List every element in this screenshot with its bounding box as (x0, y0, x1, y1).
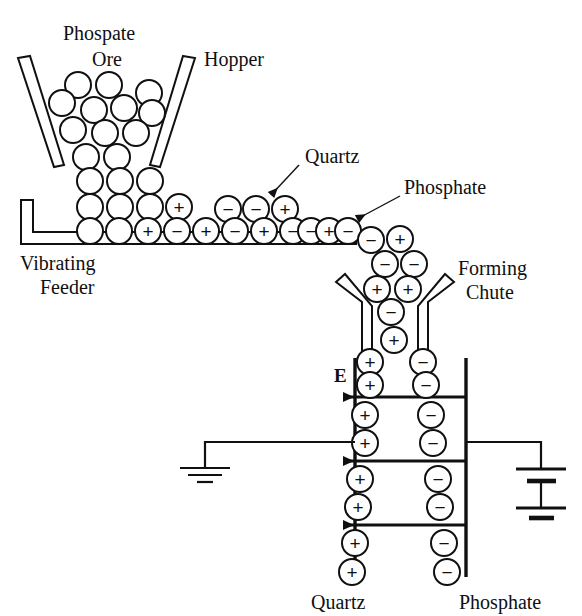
label-vibrating-feeder-line2: Feeder (40, 276, 95, 298)
charge-sign: + (323, 221, 334, 242)
charge-sign: + (364, 352, 375, 373)
label-forming-chute-line2: Chute (466, 281, 514, 303)
particle-negative: − (418, 402, 444, 428)
charge-sign: − (432, 469, 443, 490)
particle-neutral (77, 218, 103, 244)
charge-sign: + (279, 199, 290, 220)
particle-positive: + (166, 194, 192, 220)
particle-positive: + (193, 218, 219, 244)
charge-sign: − (420, 375, 431, 396)
particle-negative: − (372, 251, 398, 277)
particle-negative: − (410, 349, 436, 375)
label-bottom-phosphate: Phosphate (459, 591, 541, 614)
ore-particle (77, 168, 103, 194)
label-phosphate-callout: Phosphate (404, 176, 486, 199)
ore-particle (49, 90, 75, 116)
particle-positive: + (364, 276, 390, 302)
charge-sign: − (379, 254, 390, 275)
ore-particle (137, 168, 163, 194)
charge-sign: − (427, 433, 438, 454)
charge-sign: + (346, 562, 357, 583)
charge-sign: − (441, 562, 452, 583)
charge-sign: − (425, 405, 436, 426)
charge-sign: + (388, 330, 399, 351)
ore-particle (96, 72, 122, 98)
particle-neutral (107, 194, 133, 220)
particle-neutral (137, 194, 163, 220)
particle-positive: + (352, 430, 378, 456)
particle-positive: + (352, 402, 378, 428)
charge-sign: + (354, 469, 365, 490)
label-phosphate-ore-line1: Phospate (63, 22, 135, 45)
particle-negative: − (420, 430, 446, 456)
charge-sign: + (394, 229, 405, 250)
particle-positive: + (347, 466, 373, 492)
charge-sign: + (352, 497, 363, 518)
charge-sign: + (349, 533, 360, 554)
phosphate-callout-leader (357, 196, 400, 219)
ore-particle (107, 168, 133, 194)
particle-positive: + (342, 530, 368, 556)
ore-particle (123, 120, 149, 146)
particle-negative: − (358, 227, 384, 253)
ground-terminal-group (180, 442, 355, 482)
charge-sign: − (229, 221, 240, 242)
particle-positive: + (345, 494, 371, 520)
particle-negative: − (378, 299, 404, 325)
charge-sign: − (417, 352, 428, 373)
battery-terminal-group (466, 442, 566, 518)
particle-neutral (106, 218, 132, 244)
label-forming-chute-line1: Forming (458, 257, 527, 280)
charge-sign: + (258, 221, 269, 242)
ore-particle-group (49, 72, 165, 194)
ore-particle (104, 144, 130, 170)
particle-positive: + (395, 276, 421, 302)
charge-sign: − (342, 221, 353, 242)
battery-wire (466, 442, 541, 469)
charge-sign: − (438, 533, 449, 554)
ore-particle (60, 117, 86, 143)
diagram-canvas: + − − + + (0, 0, 582, 616)
charge-sign: − (305, 221, 316, 242)
particle-positive: + (339, 559, 365, 585)
charge-sign: − (408, 254, 419, 275)
ore-particle (81, 97, 107, 123)
charge-sign: + (173, 197, 184, 218)
charge-sign: + (364, 375, 375, 396)
particle-positive: + (357, 372, 383, 398)
ore-particle (92, 120, 118, 146)
charge-sign: − (250, 199, 261, 220)
particle-neutral (77, 194, 103, 220)
charge-sign: + (200, 221, 211, 242)
charge-sign: − (287, 221, 298, 242)
label-vibrating-feeder-line1: Vibrating (20, 252, 95, 275)
particle-negative: − (164, 218, 190, 244)
particle-negative: − (434, 559, 460, 585)
label-quartz-callout: Quartz (305, 145, 360, 167)
ground-wire (205, 442, 355, 468)
charge-sign: + (359, 433, 370, 454)
ore-particle (111, 95, 137, 121)
charge-sign: + (402, 279, 413, 300)
quartz-callout-leader (271, 165, 299, 195)
chute-right-wall (418, 274, 454, 353)
charge-sign: + (359, 405, 370, 426)
label-phosphate-ore-line2: Ore (92, 48, 122, 70)
particle-negative: − (413, 372, 439, 398)
particle-positive: + (387, 226, 413, 252)
charge-sign: − (385, 302, 396, 323)
particle-negative: − (401, 251, 427, 277)
ore-particle (73, 144, 99, 170)
charge-sign: − (222, 199, 233, 220)
separator-right-column: − − − − − − − (410, 349, 460, 585)
charge-sign: − (434, 497, 445, 518)
particle-positive: + (251, 218, 277, 244)
charge-sign: + (371, 279, 382, 300)
label-hopper: Hopper (204, 48, 264, 71)
charge-sign: − (171, 221, 182, 242)
particle-negative: − (427, 494, 453, 520)
particle-negative: − (431, 530, 457, 556)
label-bottom-quartz: Quartz (311, 591, 366, 613)
particle-positive: + (381, 327, 407, 353)
particle-negative: − (222, 218, 248, 244)
